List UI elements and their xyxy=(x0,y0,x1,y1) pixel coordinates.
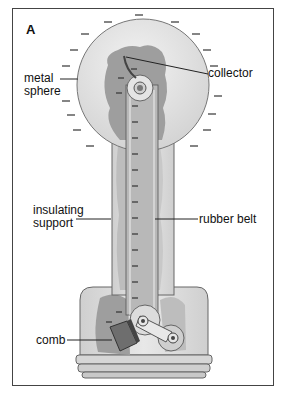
label-insulating-support: insulating support xyxy=(33,204,84,230)
label-metal-sphere-line2: sphere xyxy=(24,85,61,98)
top-pulley xyxy=(127,75,153,101)
label-rubber-belt: rubber belt xyxy=(199,213,256,226)
label-collector: collector xyxy=(208,67,253,80)
label-insulating-support-line2: support xyxy=(33,217,84,230)
label-metal-sphere: metal sphere xyxy=(24,72,61,98)
rubber-belt xyxy=(126,85,158,315)
label-comb: comb xyxy=(36,334,65,347)
panel-letter: A xyxy=(26,22,35,37)
